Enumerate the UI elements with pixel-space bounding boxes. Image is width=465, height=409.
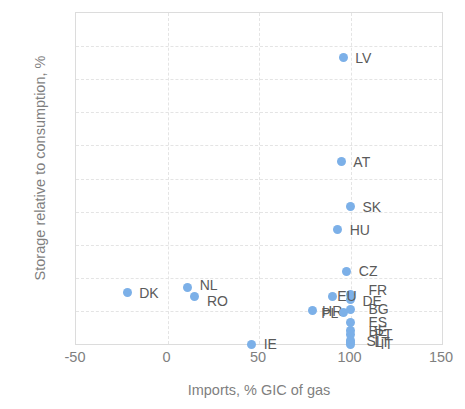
gridline-vertical — [259, 13, 260, 344]
data-point — [339, 308, 348, 317]
plot-area: LVATSKHUCZNLDKROFRDEEUBGHRPLESBEPTSILTIT… — [75, 12, 443, 345]
data-point-label: DK — [139, 285, 158, 301]
data-point-label: RO — [207, 293, 228, 309]
data-point — [346, 202, 355, 211]
data-point — [339, 53, 348, 62]
data-point — [328, 292, 337, 301]
x-axis-tick-label: 0 — [137, 349, 197, 365]
data-point-label: SK — [363, 199, 382, 215]
data-point — [342, 267, 351, 276]
data-point — [123, 288, 132, 297]
data-point-label: HU — [350, 222, 370, 238]
data-point-label: EU — [337, 288, 356, 304]
data-point-label: AT — [353, 154, 370, 170]
data-point — [337, 157, 346, 166]
data-point-label: PL — [321, 305, 338, 321]
data-point — [333, 225, 342, 234]
data-point — [190, 292, 199, 301]
data-point — [308, 306, 317, 315]
x-axis-tick-label: 50 — [228, 349, 288, 365]
x-axis-tick-label: 150 — [411, 349, 465, 365]
scatter-chart: Storage relative to consumption, % LVATS… — [0, 0, 465, 409]
data-point — [247, 340, 256, 349]
x-axis-title: Imports, % GIC of gas — [75, 382, 443, 398]
data-point-label: CZ — [359, 263, 378, 279]
gridline-vertical — [168, 13, 169, 344]
y-axis-title: Storage relative to consumption, % — [32, 38, 48, 298]
x-axis-tick-label: -50 — [45, 349, 105, 365]
x-axis-tick-label: 100 — [320, 349, 380, 365]
data-point-label: IT — [381, 336, 393, 352]
data-point — [346, 340, 355, 349]
data-point — [183, 283, 192, 292]
data-point-label: NL — [200, 277, 218, 293]
data-point-label: LV — [355, 50, 371, 66]
